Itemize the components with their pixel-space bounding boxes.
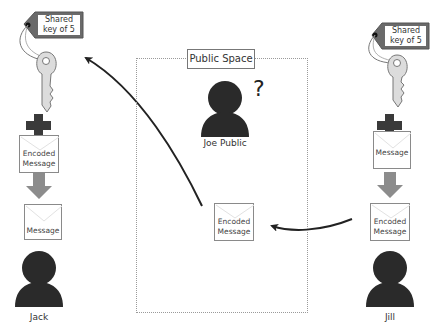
left-encoded-message-envelope: Encoded Message — [19, 135, 59, 173]
envelope-line1: Encoded — [371, 217, 409, 227]
right-down-arrow-icon — [377, 172, 403, 198]
question-mark-icon: ? — [253, 76, 265, 101]
envelope-line2: Message — [20, 159, 58, 169]
envelope-line2: Message — [371, 227, 409, 237]
public-encoded-message-envelope: Encoded Message — [214, 203, 254, 241]
envelope-line1: Encoded — [20, 149, 58, 159]
left-key-icon — [37, 52, 56, 112]
right-key-icon — [388, 55, 407, 107]
right-encoded-message-envelope: Encoded Message — [370, 203, 410, 241]
public-space-label: Public Space — [187, 49, 255, 69]
envelope-line1: Encoded — [215, 217, 253, 227]
public-space-boundary — [136, 58, 308, 313]
right-key-tag-line2: key of 5 — [388, 36, 424, 46]
joe-public-name: Joe Public — [195, 138, 255, 148]
right-key-tag-label: Shared key of 5 — [388, 26, 424, 46]
envelope-line1: Message — [25, 226, 61, 236]
envelope-line2: Message — [215, 227, 253, 237]
left-key-tag-label: Shared key of 5 — [41, 15, 77, 35]
jack-avatar-icon — [15, 251, 63, 307]
right-message-envelope: Message — [373, 131, 411, 169]
jack-name: Jack — [9, 312, 69, 322]
left-key-tag-line2: key of 5 — [41, 25, 77, 35]
right-key-tag-line1: Shared — [388, 26, 424, 36]
jill-name: Jill — [360, 312, 420, 322]
envelope-line1: Message — [374, 148, 410, 158]
jill-avatar-icon — [366, 251, 414, 307]
left-down-arrow-icon — [26, 173, 52, 199]
left-decoded-message-envelope: Message — [24, 204, 62, 240]
left-key-tag-line1: Shared — [41, 15, 77, 25]
